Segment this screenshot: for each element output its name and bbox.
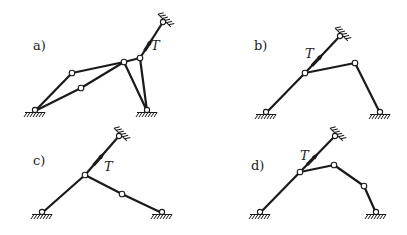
ground-support-icon <box>151 209 172 219</box>
ground-support-icon <box>249 209 270 219</box>
pin-joint <box>82 172 88 178</box>
link-bar <box>266 73 305 113</box>
link-bar <box>35 88 81 111</box>
pivot-joint <box>160 19 165 24</box>
link-bar <box>42 175 85 213</box>
pin-joint <box>137 55 143 61</box>
link-bar <box>260 172 300 213</box>
panel-b: b)T <box>254 25 390 119</box>
panel-c: c)T <box>31 125 172 219</box>
ground-support-icon <box>255 109 276 119</box>
pin-joint <box>121 59 127 65</box>
tension-member-thick <box>94 156 103 166</box>
pin-joint <box>361 183 367 189</box>
panel-a: a)T <box>24 11 174 117</box>
panel-label: c) <box>33 153 45 168</box>
pin-joint <box>297 169 303 175</box>
pin-joint <box>302 70 308 76</box>
linkage-diagrams: a)Tb)Tc)Td)T <box>0 0 407 235</box>
pin-joint <box>352 60 358 66</box>
link-bar <box>334 165 364 186</box>
link-bar <box>364 186 376 213</box>
ground-support-icon <box>24 107 45 117</box>
panel-label: d) <box>251 158 264 173</box>
link-bar <box>35 73 72 111</box>
ground-support-icon <box>365 209 386 219</box>
link-bar <box>355 63 380 113</box>
panel-label: b) <box>254 38 267 53</box>
pin-joint <box>69 70 75 76</box>
pivot-joint <box>332 133 337 138</box>
link-bar <box>85 175 122 194</box>
pivot-joint <box>337 33 342 38</box>
panel-d: d)T <box>249 125 386 219</box>
force-label: T <box>305 46 315 61</box>
ground-support-icon <box>31 209 52 219</box>
mechanism-figure: a)Tb)Tc)Td)T <box>0 0 407 235</box>
pivot-joint <box>116 133 121 138</box>
force-label: T <box>151 38 161 53</box>
ground-support-icon <box>369 109 390 119</box>
link-bar <box>122 194 162 213</box>
panel-label: a) <box>33 38 46 53</box>
pin-joint <box>331 162 337 168</box>
ground-support-icon <box>136 107 157 117</box>
pin-joint <box>119 191 125 197</box>
force-label: T <box>300 148 310 163</box>
force-label: T <box>104 159 114 174</box>
pin-joint <box>78 85 84 91</box>
